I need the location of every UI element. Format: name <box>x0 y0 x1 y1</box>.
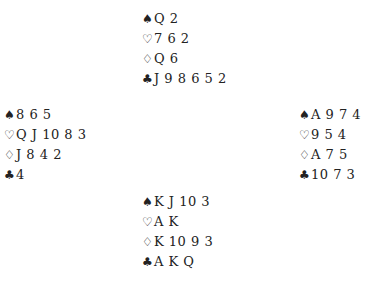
west-hearts: ♡Q J 10 8 3 <box>4 125 86 145</box>
south-clubs-cards: A K Q <box>154 254 195 269</box>
west-clubs: ♣4 <box>4 165 86 185</box>
spade-icon: ♠ <box>299 105 311 125</box>
west-diamonds: ♢J 8 4 2 <box>4 145 86 165</box>
east-hearts-cards: 9 5 4 <box>311 127 347 142</box>
club-icon: ♣ <box>4 165 16 185</box>
south-hearts-cards: A K <box>154 214 179 229</box>
east-diamonds-cards: A 7 5 <box>311 147 348 162</box>
west-spades-cards: 8 6 5 <box>16 107 52 122</box>
west-spades: ♠8 6 5 <box>4 105 86 125</box>
club-icon: ♣ <box>299 165 311 185</box>
club-icon: ♣ <box>142 69 154 89</box>
south-clubs: ♣A K Q <box>142 252 213 272</box>
north-hearts-cards: 7 6 2 <box>154 31 190 46</box>
club-icon: ♣ <box>142 252 154 272</box>
south-diamonds: ♢K 10 9 3 <box>142 232 213 252</box>
heart-icon: ♡ <box>142 29 154 49</box>
spade-icon: ♠ <box>142 9 154 29</box>
east-diamonds: ♢A 7 5 <box>299 145 361 165</box>
heart-icon: ♡ <box>299 125 311 145</box>
heart-icon: ♡ <box>4 125 16 145</box>
south-diamonds-cards: K 10 9 3 <box>154 234 213 249</box>
south-spades: ♠K J 10 3 <box>142 192 213 212</box>
east-clubs-cards: 10 7 3 <box>311 167 355 182</box>
north-hearts: ♡7 6 2 <box>142 29 227 49</box>
west-hand: ♠8 6 5 ♡Q J 10 8 3 ♢J 8 4 2 ♣4 <box>4 105 86 185</box>
north-hand: ♠Q 2 ♡7 6 2 ♢Q 6 ♣J 9 8 6 5 2 <box>142 9 227 89</box>
east-hearts: ♡9 5 4 <box>299 125 361 145</box>
spade-icon: ♠ <box>142 192 154 212</box>
diamond-icon: ♢ <box>142 49 154 69</box>
south-hearts: ♡A K <box>142 212 213 232</box>
south-hand: ♠K J 10 3 ♡A K ♢K 10 9 3 ♣A K Q <box>142 192 213 272</box>
north-clubs: ♣J 9 8 6 5 2 <box>142 69 227 89</box>
south-spades-cards: K J 10 3 <box>154 194 210 209</box>
north-diamonds: ♢Q 6 <box>142 49 227 69</box>
diamond-icon: ♢ <box>299 145 311 165</box>
east-hand: ♠A 9 7 4 ♡9 5 4 ♢A 7 5 ♣10 7 3 <box>299 105 361 185</box>
east-clubs: ♣10 7 3 <box>299 165 361 185</box>
east-spades-cards: A 9 7 4 <box>311 107 361 122</box>
north-spades: ♠Q 2 <box>142 9 227 29</box>
west-diamonds-cards: J 8 4 2 <box>16 147 62 162</box>
diamond-icon: ♢ <box>4 145 16 165</box>
east-spades: ♠A 9 7 4 <box>299 105 361 125</box>
heart-icon: ♡ <box>142 212 154 232</box>
north-diamonds-cards: Q 6 <box>154 51 179 66</box>
west-hearts-cards: Q J 10 8 3 <box>16 127 86 142</box>
north-clubs-cards: J 9 8 6 5 2 <box>154 71 227 86</box>
diamond-icon: ♢ <box>142 232 154 252</box>
spade-icon: ♠ <box>4 105 16 125</box>
west-clubs-cards: 4 <box>16 167 25 182</box>
north-spades-cards: Q 2 <box>154 11 179 26</box>
